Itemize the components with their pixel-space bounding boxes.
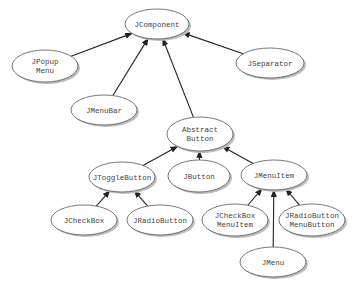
node-ellipse [279,204,345,236]
node-label: JRadioButton [285,212,339,220]
node-label: JMenuBar [86,107,122,115]
inheritance-arrow-jmenuitem-to-abstractbutton [222,146,253,163]
class-node-jbutton: JButton [168,160,232,194]
class-node-jcheckbox: JCheckBox [51,205,119,237]
class-node-jtogglebutton: JToggleButton [89,162,157,194]
inheritance-arrow-abstractbutton-to-jcomponent [163,39,194,118]
inheritance-arrow-jcheckbox-to-jtogglebutton [96,191,109,206]
nodes-layer: JComponentJPopupMenuJMenuBarJSeparatorAb… [12,9,347,279]
inheritance-arrow-jmenu-to-jmenuitem [273,190,274,247]
node-label: JPopup [31,58,58,66]
class-node-jseparator: JSeparator [236,48,306,80]
node-ellipse [202,204,268,236]
inheritance-arrow-jradiobutton-to-jtogglebutton [134,191,147,206]
node-label: JMenu [262,259,285,267]
inheritance-arrow-jradiobuttonmenubutton-to-jmenuitem [286,189,300,205]
node-label: JComponent [134,21,179,29]
node-label: Abstract [182,126,218,134]
node-label: MenuItem [217,221,254,229]
class-node-jcheckboxmenuitem: JCheckBoxMenuItem [202,204,270,238]
class-hierarchy-diagram: JComponentJPopupMenuJMenuBarJSeparatorAb… [0,0,357,290]
node-label: JSeparator [247,60,292,68]
node-ellipse [12,50,78,82]
class-node-jcomponent: JComponent [125,9,191,41]
node-ellipse [167,117,233,151]
inheritance-arrow-jmenubar-to-jcomponent [113,38,148,95]
node-label: Button [186,135,213,143]
class-node-jpopupmenu: JPopupMenu [12,50,80,84]
node-label: JButton [183,173,215,181]
inheritance-arrow-jpopupmenu-to-jcomponent [71,33,132,56]
node-label: Menu [36,67,54,75]
inheritance-arrow-jcheckboxmenuitem-to-jmenuitem [248,189,262,205]
node-label: JCheckBox [215,212,256,220]
class-node-jradiobutton: JRadioButton [127,205,195,237]
inheritance-arrow-jseparator-to-jcomponent [183,33,243,54]
inheritance-arrow-jtogglebutton-to-abstractbutton [143,146,177,165]
class-node-jmenuitem: JMenuItem [241,160,309,192]
node-label: JMenuItem [254,172,295,180]
node-label: MenuButton [289,221,334,229]
class-node-jradiobuttonmenubutton: JRadioButtonMenuButton [279,204,347,238]
node-label: JRadioButton [133,217,187,225]
node-label: JCheckBox [64,217,105,225]
class-node-jmenubar: JMenuBar [71,95,139,127]
class-node-jmenu: JMenu [240,247,308,279]
node-label: JToggleButton [93,174,152,182]
class-node-abstractbutton: AbstractButton [167,117,235,153]
